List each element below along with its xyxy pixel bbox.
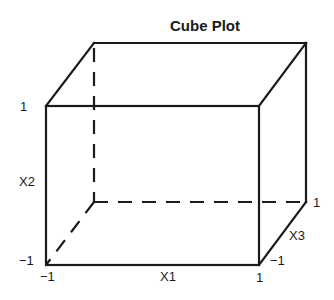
x3-high-label: 1 xyxy=(313,196,320,210)
x3-axis-label: X3 xyxy=(289,229,305,243)
hidden-bottom-left-depth-edge xyxy=(46,202,94,265)
x1-low-label: −1 xyxy=(40,270,55,284)
x1-high-label: 1 xyxy=(256,271,263,285)
x2-axis-label: X2 xyxy=(19,175,35,189)
front-face xyxy=(46,106,259,265)
x3-low-label: −1 xyxy=(270,254,285,268)
x2-high-label: 1 xyxy=(20,100,27,114)
top-right-depth-edge xyxy=(259,43,306,106)
x2-low-label: −1 xyxy=(19,254,34,268)
x1-axis-label: X1 xyxy=(160,270,176,284)
top-left-depth-edge xyxy=(46,43,94,106)
